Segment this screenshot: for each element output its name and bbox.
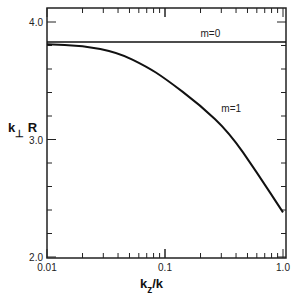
x-tick-label: 0.01 [37, 262, 57, 273]
annotation-layer: m=0m=1 [201, 28, 242, 114]
x-tick-label: 0.1 [158, 262, 172, 273]
x-axis-ticks: 0.010.11.0 [37, 8, 290, 273]
series-layer [47, 42, 286, 212]
y-tick-label: 3.0 [29, 135, 43, 146]
x-axis-label: kz/k [140, 276, 164, 295]
chart: 2.03.04.0 0.010.11.0 m=0m=1 k⊥ R kz/k [0, 0, 304, 302]
y-tick-label: 4.0 [29, 17, 43, 28]
series-annotation-m0: m=0 [201, 28, 221, 39]
y-axis-ticks: 2.03.04.0 [29, 17, 286, 263]
series-annotation-m1: m=1 [221, 103, 241, 114]
x-tick-label: 1.0 [276, 262, 290, 273]
series-line-m1 [47, 44, 283, 212]
